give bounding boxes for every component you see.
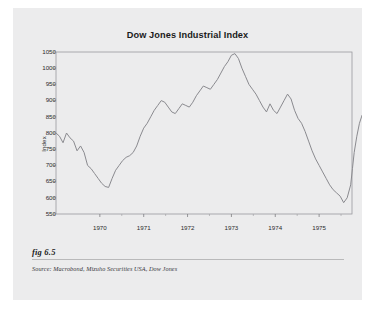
x-axis-tick-label: 1972 bbox=[171, 224, 205, 231]
axes-group bbox=[56, 52, 352, 214]
figure-number-label: fig 6.5 bbox=[32, 247, 344, 257]
plot-svg bbox=[13, 46, 362, 236]
caption-block: fig 6.5 Source: Macrobond, Mizuho Securi… bbox=[32, 247, 344, 272]
chart-figure: Dow Jones Industrial Index Index 5506006… bbox=[13, 8, 362, 300]
data-series-group bbox=[56, 54, 362, 203]
plot-area: Index 5506006507007508008509009501000105… bbox=[13, 46, 362, 236]
x-axis-tick-label: 1974 bbox=[258, 224, 292, 231]
x-axis-tick-label: 1975 bbox=[302, 224, 336, 231]
x-axis-tick-labels: 197019711972197319741975 bbox=[13, 224, 362, 238]
chart-title: Dow Jones Industrial Index bbox=[13, 30, 362, 40]
caption-divider bbox=[32, 259, 344, 260]
source-line: Source: Macrobond, Mizuho Securities USA… bbox=[32, 265, 344, 272]
x-axis-tick-label: 1971 bbox=[127, 224, 161, 231]
axis-ticks bbox=[53, 52, 341, 217]
x-axis-tick-label: 1970 bbox=[83, 224, 117, 231]
figure-page: Dow Jones Industrial Index Index 5506006… bbox=[13, 8, 362, 300]
x-axis-tick-label: 1973 bbox=[214, 224, 248, 231]
